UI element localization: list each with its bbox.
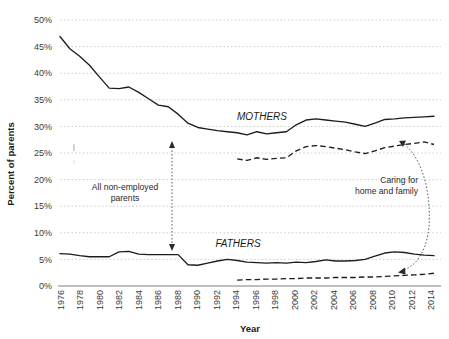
y-axis-title: Percent of parents <box>5 122 16 205</box>
caring-for-home-and-family-label: Caring for home and family <box>355 175 419 196</box>
y-tick-label: 5% <box>39 255 52 265</box>
x-axis-tick-labels: 1976 1978 1980 1982 1984 1986 1988 1990 … <box>56 290 437 310</box>
x-tick-label: 2014 <box>426 290 436 310</box>
line-chart: 50% 45% 40% 35% 30% 25% 20% 15% 10% 5% 0… <box>0 0 449 339</box>
chart-container: 50% 45% 40% 35% 30% 25% 20% 15% 10% 5% 0… <box>0 0 449 339</box>
y-tick-label: 25% <box>34 148 52 158</box>
x-tick-label: 1990 <box>192 290 202 310</box>
x-tick-label: 2012 <box>407 290 417 310</box>
x-tick-label: 1982 <box>114 290 124 310</box>
scan-artifact-2 <box>74 160 75 164</box>
x-tick-label: 2000 <box>290 290 300 310</box>
y-tick-label: 20% <box>34 175 52 185</box>
x-tick-label: 1984 <box>134 290 144 310</box>
y-tick-label: 45% <box>34 42 52 52</box>
series-label-fathers: FATHERS <box>215 238 261 249</box>
series-line-fathers-all <box>60 251 434 265</box>
x-tick-label: 1994 <box>231 290 241 310</box>
x-axis-title: Year <box>240 323 260 334</box>
x-tick-label: 2006 <box>348 290 358 310</box>
y-tick-label: 10% <box>34 228 52 238</box>
y-tick-label: 30% <box>34 122 52 132</box>
all-non-employed-parents-label: All non-employed parents <box>92 182 159 203</box>
y-tick-label: 40% <box>34 68 52 78</box>
x-tick-label: 1992 <box>212 290 222 310</box>
series-line-fathers-caring <box>237 273 434 280</box>
x-tick-label: 1986 <box>153 290 163 310</box>
y-tick-label: 35% <box>34 95 52 105</box>
y-tick-label: 0% <box>39 281 52 291</box>
scan-artifact <box>73 144 75 151</box>
annotation-line-2: parents <box>111 193 140 203</box>
annotation-line-1: Caring for <box>380 175 418 185</box>
x-tick-label: 2004 <box>329 290 339 310</box>
all-non-employed-parents-arrow <box>169 141 175 251</box>
x-tick-label: 1998 <box>270 290 280 310</box>
y-axis-tick-labels: 50% 45% 40% 35% 30% 25% 20% 15% 10% 5% 0… <box>34 15 52 291</box>
x-tick-label: 2010 <box>387 290 397 310</box>
x-tick-label: 2008 <box>368 290 378 310</box>
series-label-mothers: MOTHERS <box>237 111 287 122</box>
x-tick-label: 1976 <box>56 290 66 310</box>
annotation-line-1: All non-employed <box>92 182 159 192</box>
x-tick-label: 1988 <box>173 290 183 310</box>
gridlines <box>60 20 441 259</box>
annotation-line-2: home and family <box>355 186 419 196</box>
x-tick-label: 2002 <box>309 290 319 310</box>
x-tick-label: 1980 <box>95 290 105 310</box>
x-tick-label: 1978 <box>75 290 85 310</box>
x-tick-label: 1996 <box>251 290 261 310</box>
y-tick-label: 15% <box>34 201 52 211</box>
y-tick-label: 50% <box>34 15 52 25</box>
